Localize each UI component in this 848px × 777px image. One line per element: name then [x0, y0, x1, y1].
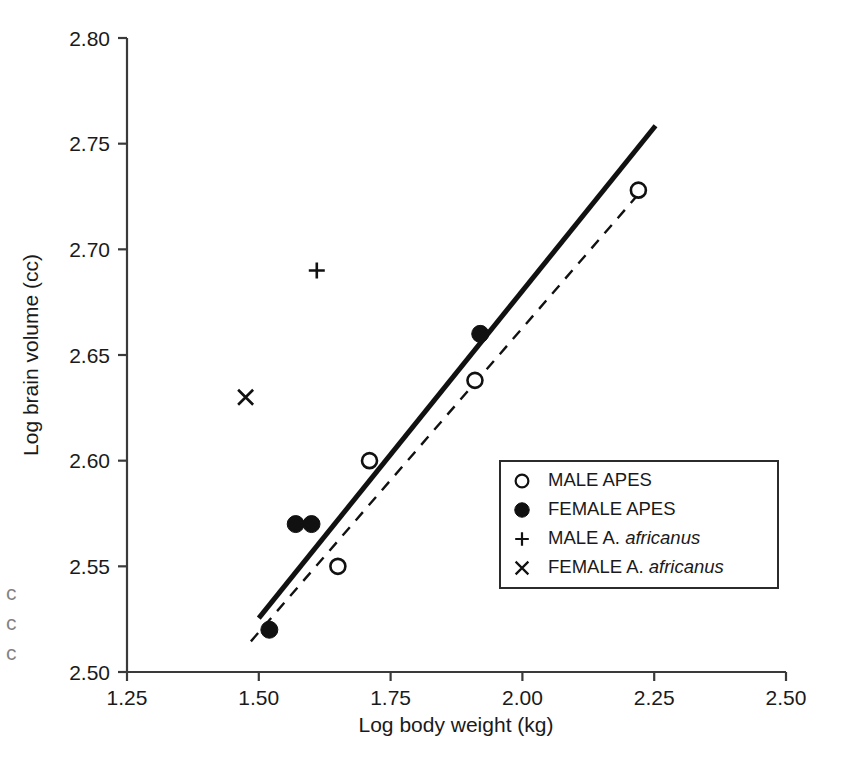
x-axis-title: Log body weight (kg): [359, 713, 554, 736]
scatter-plot: 2.502.552.602.652.702.752.80 1.251.501.7…: [0, 0, 848, 777]
x-tick-label: 1.75: [370, 686, 411, 709]
open-circle-marker: [467, 373, 482, 388]
x-tick-label: 2.00: [502, 686, 543, 709]
cross-marker: [238, 390, 253, 405]
y-axis-title: Log brain volume (cc): [19, 254, 42, 456]
page-edge-artifact: ccc: [6, 581, 17, 664]
filled-circle-marker: [287, 516, 304, 533]
x-tick-label: 1.50: [238, 686, 279, 709]
open-circle-marker: [631, 183, 646, 198]
y-axis-ticks: 2.502.552.602.652.702.752.80: [69, 27, 127, 684]
series-female-a-africanus: [238, 390, 253, 405]
filled-circle-marker: [472, 325, 489, 342]
y-tick-label: 2.55: [69, 555, 110, 578]
y-tick-label: 2.50: [69, 661, 110, 684]
series-male-a-africanus: [309, 262, 325, 278]
open-circle-marker: [330, 559, 345, 574]
legend-item-label: FEMALE APES: [548, 498, 676, 519]
x-axis-ticks: 1.251.501.752.002.252.50: [107, 672, 807, 709]
legend-item-label: MALE A. africanus: [548, 527, 700, 548]
open-circle-marker: [362, 453, 377, 468]
filled-circle-marker: [303, 516, 320, 533]
x-tick-label: 1.25: [107, 686, 148, 709]
open-circle-marker-legend: [516, 475, 529, 488]
y-tick-label: 2.60: [69, 449, 110, 472]
legend-item-label: MALE APES: [548, 469, 652, 490]
filled-circle-marker: [261, 621, 278, 638]
legend: MALE APESFEMALE APESMALE A. africanusFEM…: [500, 461, 778, 588]
y-tick-label: 2.75: [69, 132, 110, 155]
legend-item-label: FEMALE A. africanus: [548, 556, 724, 577]
y-tick-label: 2.65: [69, 344, 110, 367]
filled-circle-marker-legend: [515, 503, 529, 517]
plus-marker: [309, 262, 325, 278]
x-tick-label: 2.50: [766, 686, 807, 709]
y-tick-label: 2.80: [69, 27, 110, 50]
y-tick-label: 2.70: [69, 238, 110, 261]
x-tick-label: 2.25: [634, 686, 675, 709]
figure-container: 2.502.552.602.652.702.752.80 1.251.501.7…: [0, 0, 848, 777]
